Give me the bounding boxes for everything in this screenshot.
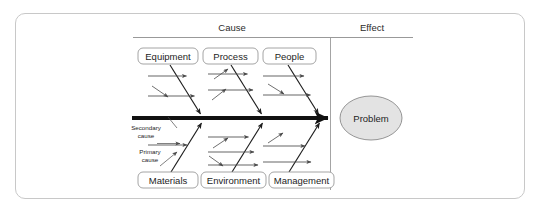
category-box-environment[interactable]: Environment	[201, 172, 266, 188]
diagram-canvas: Cause Effect	[0, 0, 542, 214]
category-box-equipment[interactable]: Equipment	[138, 48, 198, 64]
twig-process-2	[212, 89, 226, 100]
category-box-people[interactable]: People	[263, 48, 316, 64]
leader-primary-cause	[160, 152, 177, 166]
category-label-process: Process	[213, 51, 248, 62]
twig-equipment-1	[152, 86, 168, 97]
bone-equipment	[170, 65, 201, 114]
bone-process	[231, 65, 262, 114]
category-label-equipment: Equipment	[145, 51, 191, 62]
twig-environment-1	[213, 138, 228, 148]
twig-people-1	[268, 84, 284, 94]
annotation-secondary-line2: cause	[138, 132, 155, 139]
bone-management	[289, 123, 320, 172]
fishbone-diagram: Cause Effect	[0, 0, 542, 214]
annotation-secondary-line1: Secondary	[131, 124, 161, 131]
problem-node[interactable]: Problem	[340, 96, 402, 140]
bone-people	[288, 65, 319, 114]
category-label-management: Management	[274, 175, 330, 186]
category-box-materials[interactable]: Materials	[138, 172, 198, 188]
problem-label: Problem	[353, 113, 388, 124]
twig-management-1	[268, 133, 283, 143]
category-box-management[interactable]: Management	[269, 172, 334, 188]
category-label-environment: Environment	[207, 175, 261, 186]
twig-environment-2	[209, 156, 223, 166]
category-label-materials: Materials	[149, 175, 188, 186]
category-box-process[interactable]: Process	[203, 48, 258, 64]
category-label-people: People	[275, 51, 305, 62]
annotation-primary-line1: Primary	[139, 148, 161, 155]
effect-header: Effect	[360, 22, 384, 33]
cause-header: Cause	[218, 22, 245, 33]
annotation-primary-line2: cause	[142, 156, 159, 163]
bone-materials	[171, 123, 202, 172]
